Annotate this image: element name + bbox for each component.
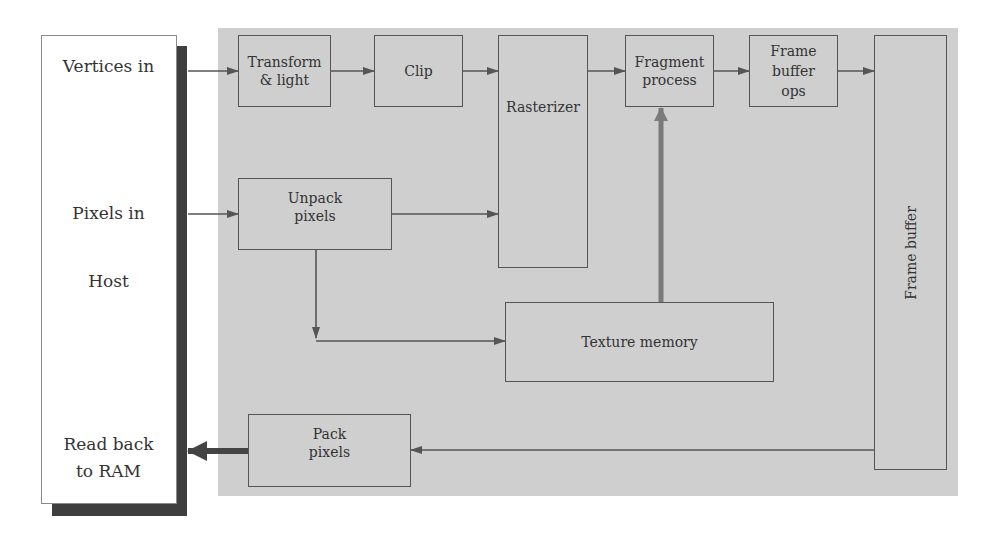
arrows-layer bbox=[0, 0, 992, 538]
